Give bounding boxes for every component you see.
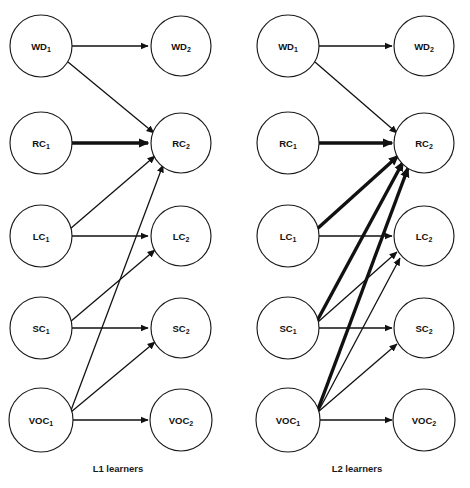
panel-caption-l1: L1 learners [93, 463, 144, 474]
node-label-subscript: 1 [293, 328, 297, 335]
node-l2-sc1: SC1 [257, 297, 319, 359]
node-l2-sc2: SC2 [394, 298, 454, 358]
node-label-subscript: 2 [187, 46, 191, 53]
node-label-subscript: 2 [186, 328, 190, 335]
node-l1-rc1: RC1 [10, 112, 72, 174]
node-l1-wd2: WD2 [151, 16, 211, 76]
node-label-subscript: 2 [185, 236, 189, 243]
node-label-subscript: 1 [294, 46, 298, 53]
node-l1-voc2: VOC2 [150, 389, 212, 451]
node-label-subscript: 1 [293, 143, 297, 150]
node-l2-voc2: VOC2 [393, 389, 455, 451]
node-l2-voc1: VOC1 [256, 388, 320, 452]
node-label-subscript: 1 [46, 143, 50, 150]
node-l2-lc2: LC2 [394, 206, 454, 266]
node-label-subscript: 1 [46, 328, 50, 335]
node-l1-voc1: VOC1 [9, 388, 73, 452]
panel-caption-l2: L2 learners [332, 463, 383, 474]
node-l1-lc1: LC1 [10, 205, 72, 267]
node-l1-lc2: LC2 [151, 206, 211, 266]
node-label-subscript: 2 [430, 46, 434, 53]
path-diagram-figure: WD1WD2RC1RC2LC1LC2SC1SC2VOC1VOC2WD1WD2RC… [0, 0, 470, 488]
node-l1-sc1: SC1 [10, 297, 72, 359]
node-label-subscript: 1 [49, 420, 53, 427]
node-label-subscript: 2 [429, 328, 433, 335]
node-label-subscript: 2 [428, 236, 432, 243]
node-label-subscript: 2 [186, 143, 190, 150]
node-l1-wd1: WD1 [10, 15, 72, 77]
node-label-subscript: 1 [45, 236, 49, 243]
node-l2-wd2: WD2 [394, 16, 454, 76]
diagram-canvas: WD1WD2RC1RC2LC1LC2SC1SC2VOC1VOC2WD1WD2RC… [0, 0, 470, 488]
node-l2-rc2: RC2 [394, 113, 454, 173]
node-l2-wd1: WD1 [257, 15, 319, 77]
node-l1-sc2: SC2 [151, 298, 211, 358]
node-label-subscript: 2 [189, 420, 193, 427]
node-label-subscript: 1 [47, 46, 51, 53]
node-label-subscript: 2 [429, 143, 433, 150]
node-l2-lc1: LC1 [257, 205, 319, 267]
node-l1-rc2: RC2 [151, 113, 211, 173]
node-label-subscript: 2 [432, 420, 436, 427]
node-l2-rc1: RC1 [257, 112, 319, 174]
node-label-subscript: 1 [296, 420, 300, 427]
node-label-subscript: 1 [292, 236, 296, 243]
